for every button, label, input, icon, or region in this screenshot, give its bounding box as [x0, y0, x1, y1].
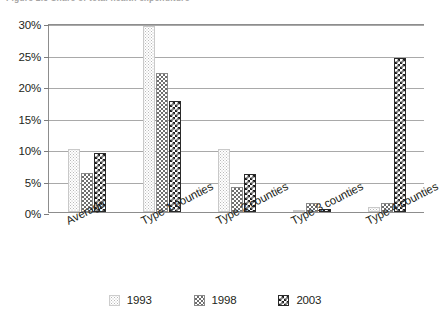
- legend-item-2003[interactable]: 2003: [278, 294, 321, 306]
- y-axis-tick: [44, 57, 49, 58]
- chart-legend: 199319982003: [0, 294, 430, 306]
- y-axis-label: 25%: [19, 51, 41, 63]
- legend-item-1998[interactable]: 1998: [194, 294, 237, 306]
- bar-group: [218, 25, 256, 212]
- bar-group: [293, 25, 331, 212]
- bar-1993-average[interactable]: [68, 149, 80, 212]
- y-axis-tick: [44, 25, 49, 26]
- legend-item-1993[interactable]: 1993: [109, 294, 152, 306]
- legend-label-1993: 1993: [127, 294, 152, 306]
- y-axis-tick: [44, 120, 49, 121]
- bar-1993-type-1-counties[interactable]: [143, 26, 155, 212]
- y-axis-label: 15%: [19, 114, 41, 126]
- legend-swatch-1998-icon: [194, 295, 205, 306]
- y-axis-label: 5%: [25, 177, 41, 189]
- y-axis-label: 10%: [19, 145, 41, 157]
- y-axis-tick: [44, 88, 49, 89]
- bar-group: [368, 25, 406, 212]
- legend-swatch-1993-icon: [109, 295, 120, 306]
- legend-label-1998: 1998: [212, 294, 237, 306]
- bar-2003-type-4-counties[interactable]: [394, 58, 406, 212]
- y-axis-tick: [44, 214, 49, 215]
- bar-1993-type-2-counties[interactable]: [218, 149, 230, 212]
- bar-group: [143, 25, 181, 212]
- legend-swatch-2003-icon: [278, 295, 289, 306]
- legend-label-2003: 2003: [296, 294, 321, 306]
- y-axis-tick: [44, 183, 49, 184]
- bar-1998-type-1-counties[interactable]: [156, 73, 168, 212]
- y-axis-label: 20%: [19, 82, 41, 94]
- y-axis-label: 30%: [19, 19, 41, 31]
- y-axis-tick: [44, 151, 49, 152]
- bar-group: [68, 25, 106, 212]
- plot-area: 0%5%10%15%20%25%30%: [48, 24, 424, 213]
- y-axis-label: 0%: [25, 208, 41, 220]
